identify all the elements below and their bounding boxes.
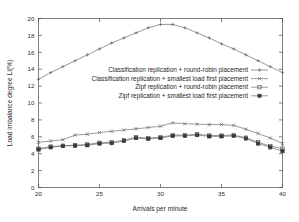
legend-label-1: Classification replication + smallest lo… [92,75,249,83]
y-tick-label: 12 [28,82,35,89]
series-marker-3 [220,135,223,138]
y-tick-label: 14 [28,65,35,72]
series-marker-3 [147,137,150,140]
y-tick-label: 2 [31,167,35,174]
series-marker-3 [98,142,101,145]
legend-label-3: Zipf replication + smallest load first p… [119,92,249,100]
series-marker-3 [86,144,89,147]
y-tick-label: 18 [28,32,35,39]
series-marker-3 [195,133,198,136]
y-tick-label: 6 [31,133,35,140]
x-axis-title: Arrivals per minute [133,205,188,213]
series-marker-3 [122,139,125,142]
series-marker-3 [281,149,284,152]
y-axis-title: Load imbalance degree LI(%) [6,60,14,147]
y-tick-label: 8 [31,116,35,123]
x-tick-label: 20 [35,190,42,197]
series-marker-3 [134,136,137,139]
y-tick-label: 4 [31,150,35,157]
series-marker-3 [171,134,174,137]
legend-label-0: Classification replication + round-robin… [108,66,248,74]
legend-marker-3 [258,94,261,97]
series-marker-3 [61,144,64,147]
series-marker-3 [256,142,259,145]
chart-background [0,0,299,222]
y-tick-label: 10 [28,99,35,106]
x-tick-label: 40 [279,190,286,197]
series-marker-3 [232,134,235,137]
series-marker-3 [110,141,113,144]
line-chart: 02468101214161820 2025303540 Arrivals pe… [0,0,299,222]
series-marker-3 [37,148,40,151]
legend-label-2: Zipf replication + round-robin placement [135,83,248,91]
series-marker-3 [159,136,162,139]
series-marker-3 [269,146,272,149]
series-marker-3 [183,134,186,137]
series-marker-3 [244,137,247,140]
x-tick-label: 25 [96,190,103,197]
chart-figure: 02468101214161820 2025303540 Arrivals pe… [0,0,299,222]
y-tick-label: 16 [28,49,35,56]
series-marker-3 [208,135,211,138]
x-tick-label: 35 [218,190,225,197]
series-marker-3 [49,146,52,149]
y-tick-label: 20 [28,15,35,22]
series-marker-3 [73,144,76,147]
x-tick-label: 30 [157,190,164,197]
